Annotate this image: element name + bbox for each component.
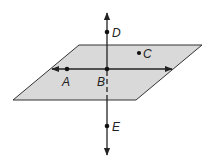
label-E: E — [112, 120, 121, 134]
point-E — [105, 124, 110, 129]
label-C: C — [143, 47, 152, 61]
label-B: B — [97, 75, 105, 89]
point-B — [105, 67, 110, 72]
geometry-diagram: A B C D E — [0, 0, 214, 168]
point-A — [65, 67, 70, 72]
point-C — [137, 51, 141, 55]
label-D: D — [112, 26, 121, 40]
label-A: A — [61, 75, 70, 89]
point-D — [105, 30, 110, 35]
